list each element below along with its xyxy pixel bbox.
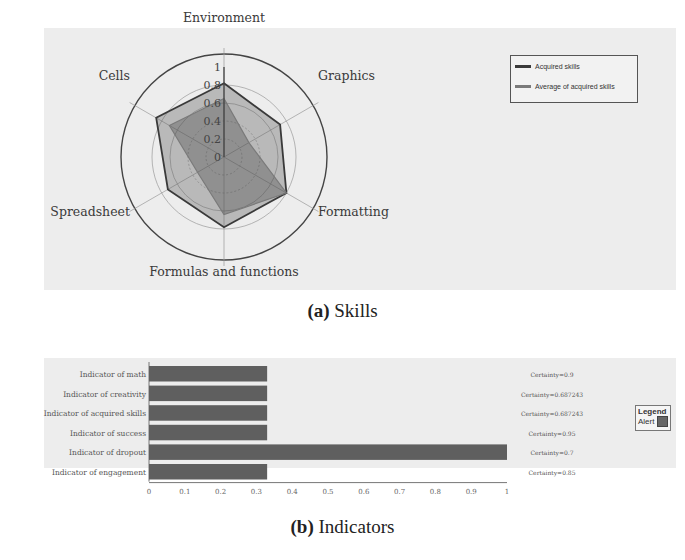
- legend-item-alert: Alert: [638, 416, 668, 427]
- bar-x-tick-label: 0.7: [394, 488, 405, 496]
- caption-label: (b): [291, 516, 314, 537]
- bar-x-tick-label: 0.8: [430, 488, 441, 496]
- bar-certainty-label: Certainty=0.95: [529, 430, 576, 438]
- bar-certainty-label: Certainty=0.7: [530, 449, 573, 457]
- caption-indicators: (b) Indicators: [0, 516, 685, 538]
- bar-indicator-of-dropout: [149, 444, 507, 460]
- bar-x-tick-label: 0.2: [215, 488, 226, 496]
- bar-x-tick-label: 0.1: [179, 488, 190, 496]
- legend-swatch-alert: [657, 416, 668, 427]
- legend-label: Alert: [638, 417, 654, 426]
- bar-x-tick-label: 0.3: [251, 488, 262, 496]
- bar-indicator-of-engagement: [149, 464, 267, 480]
- bar-certainty-label: Certainty=0.9: [530, 371, 573, 379]
- bar-x-tick-label: 0.5: [322, 488, 333, 496]
- bar-category-label: Indicator of acquired skills: [44, 409, 146, 418]
- bar-certainty-label: Certainty=0.85: [529, 469, 576, 477]
- bar-x-tick-label: 1: [505, 488, 509, 496]
- bar-category-label: Indicator of math: [80, 370, 146, 379]
- bar-indicator-of-acquired-skills: [149, 405, 267, 421]
- indicators-bar-chart: Indicator of mathCertainty=0.9Indicator …: [0, 0, 685, 500]
- bar-x-tick-label: 0.9: [466, 488, 477, 496]
- bar-x-tick-label: 0.4: [287, 488, 299, 496]
- bar-certainty-label: Certainty=0.687243: [521, 410, 583, 418]
- legend-title: Legend: [638, 407, 668, 416]
- bar-x-tick-label: 0: [147, 488, 151, 496]
- bar-indicator-of-math: [149, 366, 267, 382]
- bar-category-label: Indicator of success: [70, 429, 146, 438]
- bar-x-tick-label: 0.6: [358, 488, 370, 496]
- bar-category-label: Indicator of engagement: [52, 468, 146, 477]
- bar-indicator-of-creativity: [149, 386, 267, 402]
- bar-legend: Legend Alert: [635, 405, 671, 431]
- caption-text: Indicators: [314, 516, 395, 537]
- bar-category-label: Indicator of dropout: [69, 448, 146, 457]
- bar-category-label: Indicator of creativity: [63, 390, 147, 399]
- bar-certainty-label: Certainty=0.687243: [521, 391, 583, 399]
- bar-indicator-of-success: [149, 425, 267, 441]
